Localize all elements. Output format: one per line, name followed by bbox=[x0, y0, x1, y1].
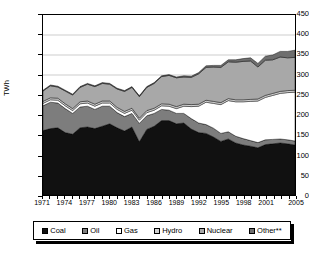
legend-label: Other** bbox=[257, 226, 282, 235]
x-tick-mark bbox=[176, 196, 177, 199]
legend-label: Oil bbox=[90, 226, 99, 235]
legend-label: Hydro bbox=[162, 226, 182, 235]
x-tick-mark bbox=[124, 196, 125, 199]
x-tick-mark bbox=[139, 196, 140, 199]
x-tick-mark bbox=[221, 196, 222, 199]
x-tick-mark bbox=[169, 196, 170, 199]
x-tick-mark bbox=[296, 196, 297, 199]
x-tick-mark bbox=[259, 196, 260, 199]
legend-shadow bbox=[36, 241, 294, 244]
x-tick-mark bbox=[109, 196, 110, 199]
plot-frame bbox=[42, 14, 296, 196]
x-tick-mark bbox=[64, 196, 65, 199]
x-tick-mark bbox=[191, 196, 192, 199]
stacked-area-plot bbox=[43, 15, 295, 195]
x-tick-mark bbox=[214, 196, 215, 199]
x-tick-mark bbox=[72, 196, 73, 199]
legend-item-oil: Oil bbox=[82, 226, 99, 235]
legend-label: Nuclear bbox=[207, 226, 233, 235]
legend-swatch-icon bbox=[154, 228, 160, 234]
x-tick-mark bbox=[251, 196, 252, 199]
legend-label: Coal bbox=[50, 226, 65, 235]
x-tick-mark bbox=[102, 196, 103, 199]
y-axis-title: TWh bbox=[2, 80, 11, 96]
legend-shadow-right bbox=[291, 224, 294, 244]
x-tick-mark bbox=[147, 196, 148, 199]
x-tick-mark bbox=[42, 196, 43, 199]
x-tick-mark bbox=[57, 196, 58, 199]
x-tick-mark bbox=[154, 196, 155, 199]
x-tick-mark bbox=[87, 196, 88, 199]
x-tick-label: 2001 bbox=[253, 199, 279, 207]
legend-item-hydro: Hydro bbox=[154, 226, 182, 235]
legend-swatch-icon bbox=[42, 228, 48, 234]
legend-item-gas: Gas bbox=[116, 226, 138, 235]
legend-item-nuclear: Nuclear bbox=[199, 226, 233, 235]
x-tick-mark bbox=[236, 196, 237, 199]
legend-swatch-icon bbox=[199, 228, 205, 234]
x-tick-mark bbox=[79, 196, 80, 199]
x-tick-mark bbox=[184, 196, 185, 199]
x-tick-mark bbox=[229, 196, 230, 199]
x-tick-mark bbox=[162, 196, 163, 199]
chart-area: TWh 450400350300250200150100500 19711974… bbox=[0, 0, 309, 216]
x-tick-mark bbox=[199, 196, 200, 199]
chart-legend: CoalOilGasHydroNuclearOther** bbox=[33, 221, 291, 240]
legend-label: Gas bbox=[124, 226, 138, 235]
x-tick-mark bbox=[132, 196, 133, 199]
x-tick-mark bbox=[117, 196, 118, 199]
legend-swatch-icon bbox=[82, 228, 88, 234]
legend-item-other: Other** bbox=[249, 226, 282, 235]
x-tick-mark bbox=[244, 196, 245, 199]
legend-swatch-icon bbox=[249, 228, 255, 234]
x-tick-mark bbox=[206, 196, 207, 199]
legend-swatch-icon bbox=[116, 228, 122, 234]
x-tick-mark bbox=[94, 196, 95, 199]
x-tick-mark bbox=[281, 196, 282, 199]
legend-item-coal: Coal bbox=[42, 226, 65, 235]
chart-root: TWh 450400350300250200150100500 19711974… bbox=[0, 0, 309, 260]
x-tick-mark bbox=[266, 196, 267, 199]
x-tick-mark bbox=[49, 196, 50, 199]
x-tick-mark bbox=[274, 196, 275, 199]
x-tick-label: 2005 bbox=[283, 199, 309, 207]
x-tick-mark bbox=[289, 196, 290, 199]
